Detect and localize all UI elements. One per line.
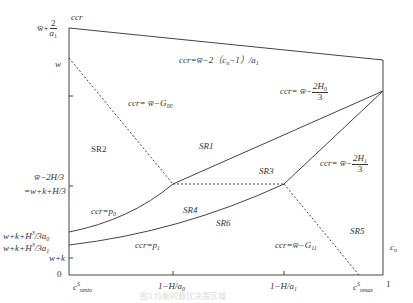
y-tick-label-wk: w+k <box>49 254 65 263</box>
y-tick-label-w: w <box>55 60 61 69</box>
t: 3 <box>317 93 324 102</box>
fraction: 2H13 <box>352 154 368 174</box>
t: 00 <box>166 103 172 109</box>
x-tick-label-cmax: cSnmax <box>353 281 373 293</box>
t: 2H <box>353 153 364 163</box>
fraction: 2a1 <box>49 19 59 39</box>
t: /3a <box>35 231 47 241</box>
y-tick-prefix: w̅+ <box>37 23 49 33</box>
t: −1）/a <box>229 55 256 65</box>
t: ccr= w̅−G <box>128 98 166 108</box>
region-sr6: SR6 <box>216 219 231 228</box>
t: 11 <box>311 245 317 251</box>
region-sr2: SR2 <box>91 145 107 154</box>
y-axis-label: ccr <box>71 13 83 22</box>
region-sr4: SR4 <box>183 206 198 215</box>
t: nmax <box>360 287 373 293</box>
region-sr3: SR3 <box>259 167 274 176</box>
t: 1−H/a <box>270 281 294 291</box>
t: w+k+H <box>3 243 32 253</box>
x-tick-label-one: 1 <box>386 280 391 289</box>
t: ccr=w̅−2（c <box>179 55 226 65</box>
t: 1 <box>256 60 259 66</box>
y-tick-label-w-2h3: w̅−2H/3 <box>34 173 64 182</box>
t: 1 <box>157 245 160 251</box>
p0-label: ccr=p0 <box>91 207 116 217</box>
t: ccr=p <box>91 206 113 216</box>
figure-caption: 图3 均衡的最优决策区域 <box>140 290 226 301</box>
t: ccr= w̅− <box>280 86 312 96</box>
g11-dashed-line <box>284 184 359 275</box>
y-tick-label-h0: w+k+H3/3a0 <box>3 230 49 242</box>
t: ccr= w̅− <box>320 158 352 168</box>
fraction: 2H03 <box>312 82 328 102</box>
t: 1 <box>294 286 297 292</box>
t: ccr=w̅−G <box>275 240 311 250</box>
h1-label: ccr= w̅−2H13 <box>320 154 368 174</box>
p1-label: ccr=p1 <box>135 241 160 251</box>
g00-label: ccr= w̅−G00 <box>128 99 172 109</box>
t: 2H <box>313 81 324 91</box>
t: 0 <box>324 86 327 92</box>
g00-dashed-line <box>69 58 173 184</box>
t: ccr=p <box>135 240 157 250</box>
y-tick-label-eq: =w+k+H/3 <box>24 187 66 196</box>
p0-curve <box>69 184 173 232</box>
t: 3 <box>357 165 364 174</box>
x-tick-label-h-a1: 1−H/a1 <box>270 282 297 292</box>
t: 1 <box>364 158 367 164</box>
region-sr1: SR1 <box>199 142 214 151</box>
t: nmin <box>80 287 92 293</box>
t: w+k+H <box>3 231 32 241</box>
x-tick-label-cmin: cSnmin <box>73 281 92 293</box>
region-sr5: SR5 <box>350 227 365 236</box>
h0-label: ccr= w̅−2H03 <box>280 82 328 102</box>
x-axis-end-label: cn <box>390 243 397 253</box>
frac-den-sub: 1 <box>54 33 57 39</box>
g11-label: ccr=w̅−G11 <box>275 241 317 251</box>
y-tick-label-h1: w+k+H3/3a1 <box>3 242 49 254</box>
y-tick-label-top: w̅+2a1 <box>37 19 58 39</box>
t: /3a <box>35 243 47 253</box>
top-curve-label: ccr=w̅−2（cn−1）/a1 <box>179 56 259 66</box>
y-tick-label-zero: 0 <box>57 270 62 279</box>
t: 0 <box>113 211 116 217</box>
